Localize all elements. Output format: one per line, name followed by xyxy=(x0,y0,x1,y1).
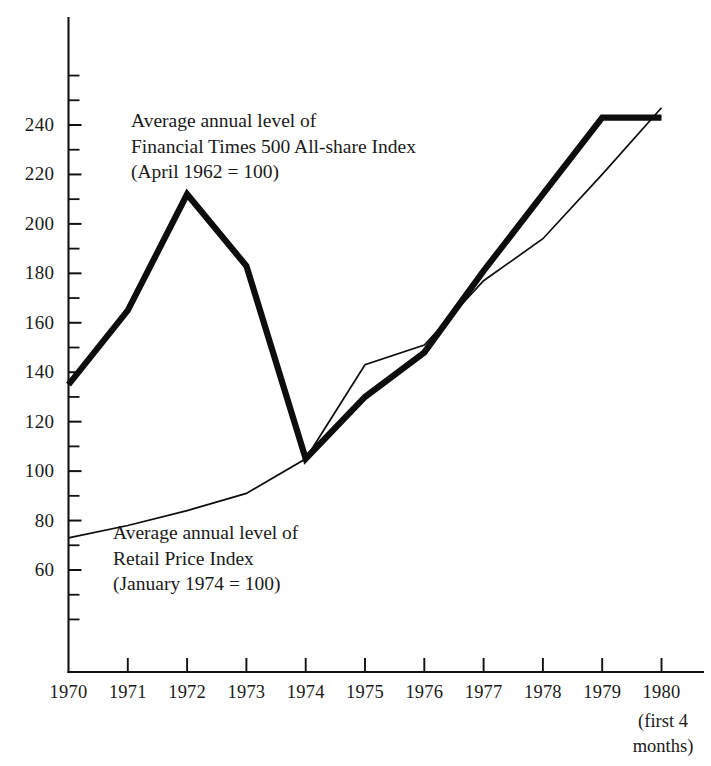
x-axis-tick-label: 1975 xyxy=(335,683,395,702)
x-axis-tick-label: 1979 xyxy=(572,683,632,702)
annotation-rpi: Average annual level of Retail Price Ind… xyxy=(113,520,298,597)
annotation-rpi-line-3: (January 1974 = 100) xyxy=(113,571,298,597)
x-axis-tick-label: 1970 xyxy=(39,683,99,702)
y-axis-tick-label: 240 xyxy=(0,115,55,134)
x-axis-tick-label: 1978 xyxy=(513,683,573,702)
y-axis-tick-label: 180 xyxy=(0,263,55,282)
x-axis-note-line-2: months) xyxy=(617,734,709,759)
x-axis-tick-label: 1974 xyxy=(276,683,336,702)
annotation-rpi-line-1: Average annual level of xyxy=(113,520,298,546)
x-axis-tick-label: 1973 xyxy=(216,683,276,702)
x-axis-note: (first 4 months) xyxy=(617,709,709,759)
annotation-ft-index-line-2: Financial Times 500 All-share Index xyxy=(131,134,416,160)
annotation-ft-index-line-3: (April 1962 = 100) xyxy=(131,159,416,185)
chart-container: 6080100120140160180200220240 19701971197… xyxy=(0,0,711,766)
y-axis-tick-label: 220 xyxy=(0,164,55,183)
x-axis-tick-label: 1971 xyxy=(98,683,158,702)
x-axis-tick-label: 1980 xyxy=(632,683,692,702)
x-axis-note-line-1: (first 4 xyxy=(617,709,709,734)
x-axis-tick-label: 1972 xyxy=(157,683,217,702)
y-axis-tick-label: 140 xyxy=(0,362,55,381)
x-axis-tick-label: 1976 xyxy=(394,683,454,702)
y-axis-tick-label: 200 xyxy=(0,214,55,233)
annotation-rpi-line-2: Retail Price Index xyxy=(113,546,298,572)
y-axis-tick-label: 80 xyxy=(0,511,55,530)
y-axis-tick-label: 60 xyxy=(0,560,55,579)
annotation-ft-index-line-1: Average annual level of xyxy=(131,108,416,134)
y-axis-tick-label: 120 xyxy=(0,412,55,431)
x-axis-tick-label: 1977 xyxy=(454,683,514,702)
y-axis-tick-label: 160 xyxy=(0,313,55,332)
y-axis-tick-label: 100 xyxy=(0,461,55,480)
annotation-ft-index: Average annual level of Financial Times … xyxy=(131,108,416,185)
